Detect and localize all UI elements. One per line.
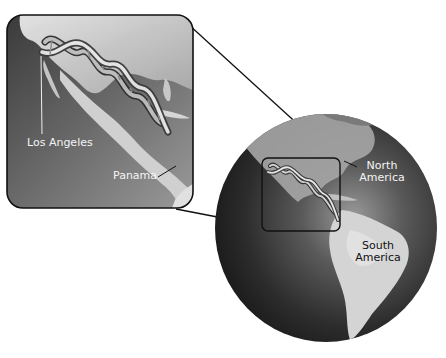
label-los-angeles: Los Angeles: [27, 137, 93, 149]
label-south-america: South America: [355, 240, 401, 264]
label-north-america-line2: America: [359, 172, 405, 184]
figure: Los Angeles Panama North America South A…: [0, 0, 446, 358]
label-north-america: North America: [359, 160, 405, 184]
globe: [215, 110, 437, 342]
label-south-america-line2: America: [355, 252, 401, 264]
label-panama: Panama: [113, 170, 157, 182]
inset-map: [7, 15, 193, 208]
